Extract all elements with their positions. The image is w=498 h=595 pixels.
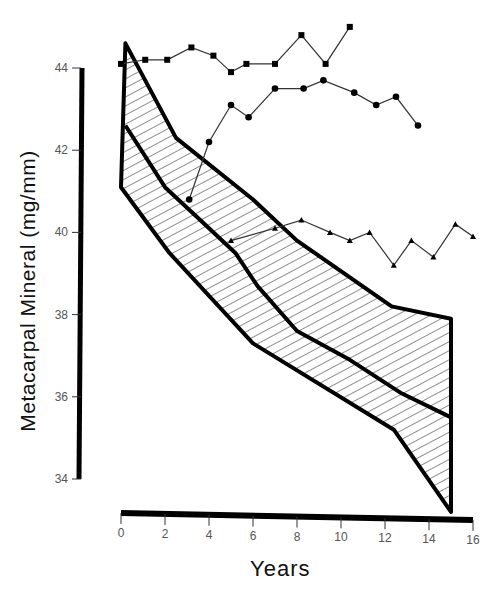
triangle-marker (327, 229, 333, 235)
y-tick-label: 36 (55, 390, 69, 404)
circle-marker (272, 85, 279, 92)
y-tick-label: 40 (55, 225, 69, 239)
square-marker (243, 61, 249, 67)
y-tick-label: 42 (55, 143, 69, 157)
circle-marker (245, 114, 252, 121)
chart-canvas: 343638404244 0246810121416 (0, 0, 498, 595)
square-marker (118, 61, 124, 67)
y-axis: 343638404244 (55, 61, 82, 486)
y-axis-label: Metacarpal Mineral (mg/mm) (16, 141, 46, 441)
x-tick-label: 8 (294, 530, 301, 544)
y-axis-line (79, 68, 82, 479)
triangle-marker (452, 221, 458, 227)
series-line (121, 27, 350, 72)
circle-marker (206, 139, 213, 146)
square-marker (272, 61, 278, 67)
square-marker (298, 32, 304, 38)
circle-marker (393, 93, 400, 100)
circle-marker (228, 102, 235, 109)
square-marker (142, 57, 148, 63)
triangle-marker (408, 238, 414, 244)
circle-marker (415, 122, 422, 129)
circle-marker (373, 102, 380, 109)
x-tick-label: 6 (250, 529, 257, 543)
x-tick-label: 4 (206, 528, 213, 542)
x-tick-label: 12 (378, 531, 392, 545)
square-marker (210, 53, 216, 59)
circle-marker (300, 85, 307, 92)
y-tick-label: 38 (55, 308, 69, 322)
circle-marker (186, 196, 193, 203)
x-tick-label: 0 (118, 526, 125, 540)
circle-marker (320, 77, 327, 84)
y-tick-label: 34 (55, 472, 69, 486)
x-tick-label: 10 (334, 530, 348, 544)
square-marker (347, 24, 353, 30)
circle-marker (351, 89, 358, 96)
triangle-marker (298, 217, 304, 223)
x-tick-label: 2 (162, 527, 169, 541)
x-axis: 0246810121416 (118, 513, 480, 547)
x-tick-label: 16 (466, 533, 480, 547)
square-marker (164, 57, 170, 63)
square-marker (188, 44, 194, 50)
range-band (121, 43, 451, 512)
square-marker (323, 61, 329, 67)
x-tick-label: 14 (422, 532, 436, 546)
triangle-marker (367, 229, 373, 235)
y-tick-label: 44 (55, 61, 69, 75)
square-marker (228, 69, 234, 75)
hatched-range-band (121, 43, 451, 512)
x-axis-label: Years (250, 556, 310, 582)
